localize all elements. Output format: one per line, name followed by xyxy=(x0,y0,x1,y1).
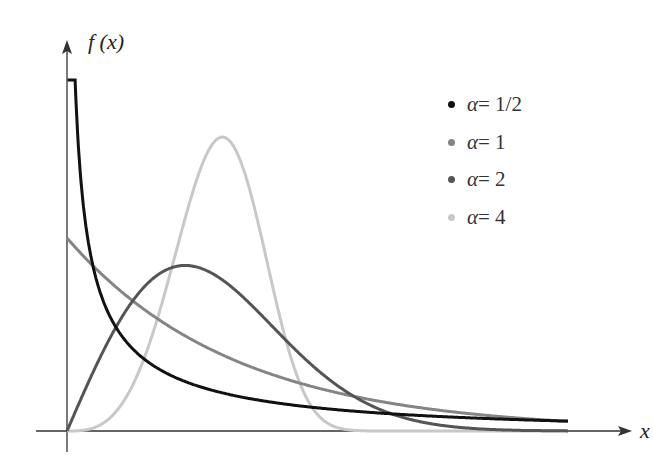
legend-dot-icon xyxy=(448,139,455,146)
legend-item: α = 4 xyxy=(448,199,522,237)
x-axis-label: x xyxy=(640,418,650,444)
plot-area xyxy=(0,0,653,466)
legend-item: α = 1 xyxy=(448,124,522,162)
legend-dot-icon xyxy=(448,101,455,108)
legend-item: α = 1/2 xyxy=(448,86,522,124)
curve-alpha-2 xyxy=(67,266,568,432)
y-axis-label: f (x) xyxy=(88,29,124,55)
legend: α = 1/2 α = 1 α = 2 α = 4 xyxy=(448,86,522,236)
legend-dot-icon xyxy=(448,176,455,183)
legend-dot-icon xyxy=(448,214,455,221)
legend-item: α = 2 xyxy=(448,161,522,199)
curve-alpha-1 xyxy=(67,238,568,421)
